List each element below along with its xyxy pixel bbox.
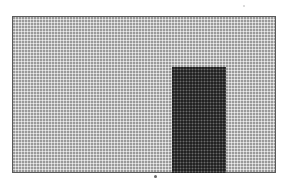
- noise-speck: [243, 5, 245, 7]
- bottom-marker-dot: [154, 175, 157, 178]
- figure-canvas: [0, 0, 291, 182]
- dithered-frame: [12, 16, 276, 173]
- dark-block: [172, 67, 226, 173]
